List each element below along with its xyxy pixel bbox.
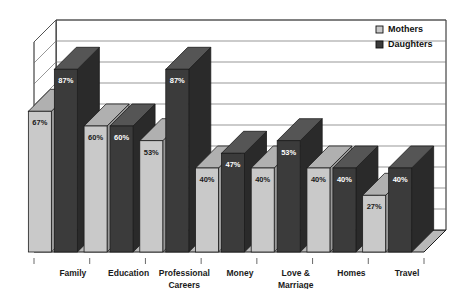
category-label: Marriage <box>278 280 314 289</box>
value-label: 87% <box>58 76 73 85</box>
category-label: Money <box>227 268 254 278</box>
legend-item[interactable]: Mothers <box>376 24 423 34</box>
category-label: Family <box>59 268 86 278</box>
category-label: Education <box>108 268 149 278</box>
value-label: 53% <box>144 148 159 157</box>
value-label: 67% <box>32 118 47 127</box>
category-label: Professional <box>159 268 210 278</box>
value-label: 60% <box>114 133 129 142</box>
value-label: 40% <box>255 175 270 184</box>
value-label: 47% <box>225 160 240 169</box>
value-label: 40% <box>393 175 408 184</box>
category-label: Homes <box>337 268 366 278</box>
bar-front-face <box>277 141 300 252</box>
category-label: Careers <box>168 280 200 289</box>
bar-front-face <box>166 69 189 252</box>
bar-daughters-travel[interactable] <box>389 146 434 252</box>
bar-front-face <box>54 69 77 252</box>
chart-container: 67%87%60%60%53%87%40%47%40%53%40%40%27%4… <box>0 0 474 289</box>
bar-front-face <box>110 126 133 252</box>
legend-label: Mothers <box>388 24 423 34</box>
bar-front-face <box>140 141 163 252</box>
value-label: 40% <box>337 175 352 184</box>
bar-chart-3d: 67%87%60%60%53%87%40%47%40%53%40%40%27%4… <box>0 0 474 289</box>
chart-axis-ticks <box>34 258 446 264</box>
category-label: Love & <box>282 268 310 278</box>
category-label: Travel <box>395 268 420 278</box>
chart-category-labels: FamilyEducationProfessionalCareersMoneyL… <box>59 268 419 289</box>
value-label: 87% <box>170 76 185 85</box>
value-label: 40% <box>199 175 214 184</box>
legend-swatch-daughters <box>376 41 383 48</box>
value-label: 60% <box>88 133 103 142</box>
bar-front-face <box>84 126 107 252</box>
legend-label: Daughters <box>388 39 433 49</box>
bar-front-face <box>28 111 51 252</box>
value-label: 40% <box>311 175 326 184</box>
value-label: 27% <box>367 202 382 211</box>
legend-swatch-mothers <box>376 26 383 33</box>
value-label: 53% <box>281 148 296 157</box>
